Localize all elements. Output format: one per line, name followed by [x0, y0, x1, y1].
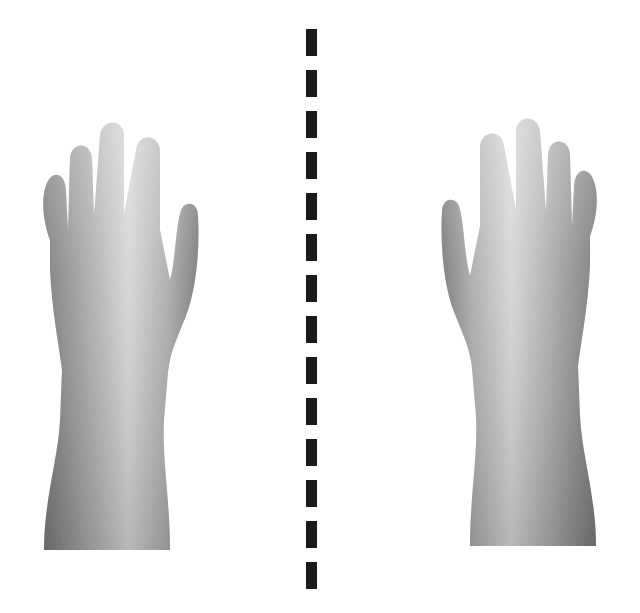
- line-dash: [306, 398, 317, 425]
- line-dash: [306, 29, 317, 56]
- line-dash: [306, 521, 317, 548]
- right-hand-image: [434, 114, 604, 546]
- line-dash: [306, 439, 317, 466]
- line-dash: [306, 275, 317, 302]
- line-dash: [306, 70, 317, 97]
- line-dash: [306, 316, 317, 343]
- reflection-figure: [0, 0, 640, 613]
- line-dash: [306, 562, 317, 589]
- left-hand-image: [36, 118, 206, 550]
- line-dash: [306, 111, 317, 138]
- line-dash: [306, 357, 317, 384]
- line-dash: [306, 193, 317, 220]
- line-dash: [306, 152, 317, 179]
- line-dash: [306, 234, 317, 261]
- line-dash: [306, 480, 317, 507]
